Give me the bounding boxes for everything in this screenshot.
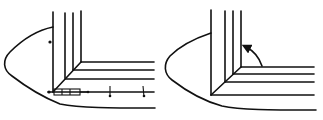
curved-arrow-icon <box>246 47 262 66</box>
diagram-svg <box>0 0 323 120</box>
right-panel <box>165 10 316 110</box>
left-panel <box>5 11 155 108</box>
left-bulb-outline <box>5 27 155 108</box>
right-corner-diagonal <box>211 67 241 95</box>
left-marker-dot-vertical <box>48 40 51 43</box>
left-marker-dot-corner <box>47 90 50 93</box>
diagram-canvas <box>0 0 323 120</box>
left-corner-diagonal <box>53 62 81 92</box>
